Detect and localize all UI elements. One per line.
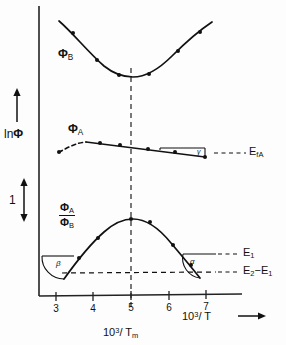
angle-label-gamma: γ bbox=[197, 148, 201, 155]
x-axis-title-tail: / T bbox=[198, 310, 211, 322]
series-phi-b bbox=[59, 21, 212, 77]
y-scale-bar-label: 1 bbox=[9, 194, 16, 206]
phi-ratio-num-subscript: A bbox=[69, 206, 74, 215]
x-axis-title: 103/ T bbox=[182, 311, 211, 322]
phi-b-curve bbox=[59, 21, 212, 77]
y-axis-title-ln: ln bbox=[4, 127, 13, 141]
data-point bbox=[95, 58, 99, 62]
data-point bbox=[171, 243, 175, 247]
y-axis-title: lnΦ bbox=[4, 128, 23, 140]
e2-e1-baseline-dashed bbox=[62, 272, 216, 273]
phi-ratio-den-subscript: B bbox=[69, 221, 74, 230]
angle-label-alpha: α bbox=[190, 258, 195, 266]
data-point bbox=[176, 49, 180, 53]
e2-minus-e1-subscript: 1 bbox=[268, 269, 272, 278]
data-point bbox=[118, 143, 122, 147]
data-point bbox=[71, 31, 75, 35]
data-point bbox=[147, 72, 151, 76]
e2-subscript: 2 bbox=[250, 269, 254, 278]
x-axis-title-exponent: 3 bbox=[194, 310, 198, 319]
data-point bbox=[77, 256, 81, 260]
curve-label-phi-ratio: ΦA ΦB bbox=[59, 202, 75, 229]
x-tick-label-4: 4 bbox=[86, 304, 100, 314]
series-phi-a bbox=[57, 141, 246, 159]
phi-ratio-curve bbox=[64, 219, 200, 279]
phi-ratio-num-symbol: Φ bbox=[60, 201, 69, 213]
phi-a-subscript: A bbox=[78, 128, 83, 137]
x-tick-label-5: 5 bbox=[124, 303, 138, 313]
data-point bbox=[198, 30, 202, 34]
phi-a-solid-segment bbox=[86, 142, 205, 157]
energy-label-e-fa: EfA bbox=[249, 146, 263, 157]
energy-label-e1: E1 bbox=[243, 247, 255, 258]
phi-ratio-denominator: ΦB bbox=[59, 216, 75, 229]
x-tick-label-3: 3 bbox=[49, 304, 63, 314]
curve-label-phi-b: ΦB bbox=[58, 48, 73, 60]
tm-label-exponent: 3 bbox=[115, 326, 119, 335]
data-point bbox=[96, 236, 100, 240]
data-point bbox=[173, 150, 177, 154]
tm-label-subscript: m bbox=[132, 331, 138, 340]
data-point bbox=[203, 155, 207, 159]
x-tick-label-6: 6 bbox=[162, 303, 176, 313]
tm-marker-label: 103/ Tm bbox=[103, 327, 138, 338]
angle-label-beta: β bbox=[56, 260, 61, 268]
chart-canvas bbox=[0, 0, 286, 345]
phi-b-symbol: Φ bbox=[58, 47, 68, 61]
x-axis-direction-arrow bbox=[238, 313, 266, 320]
e-fa-subscript: fA bbox=[256, 150, 263, 159]
data-point bbox=[57, 150, 61, 154]
energy-label-e2-minus-e1: E2−E1 bbox=[243, 265, 272, 276]
phi-ratio-fraction: ΦA ΦB bbox=[59, 202, 75, 228]
x-axis-line bbox=[39, 294, 242, 296]
phi-a-dashed-segment bbox=[59, 142, 86, 152]
phi-b-subscript: B bbox=[68, 53, 73, 62]
y-axis-title-phi: Φ bbox=[13, 127, 23, 141]
phi-ratio-den-symbol: Φ bbox=[60, 216, 69, 228]
data-point bbox=[129, 217, 133, 221]
tm-label-tail: / T bbox=[119, 326, 132, 338]
y-axis-direction-arrow bbox=[13, 88, 20, 122]
figure-root: lnΦ 1 3 4 5 6 7 103/ T 103/ Tm ΦB ΦA ΦA … bbox=[0, 0, 286, 345]
tm-label-base: 10 bbox=[103, 326, 115, 338]
x-axis-title-base: 10 bbox=[182, 310, 194, 322]
y-scale-bar-arrow bbox=[20, 178, 27, 222]
e1-subscript: 1 bbox=[250, 251, 254, 260]
data-point bbox=[98, 141, 102, 145]
data-point bbox=[148, 220, 152, 224]
phi-a-symbol: Φ bbox=[68, 122, 78, 136]
data-point bbox=[146, 147, 150, 151]
data-point bbox=[117, 73, 121, 77]
curve-label-phi-a: ΦA bbox=[68, 123, 83, 135]
phi-ratio-numerator: ΦA bbox=[59, 202, 75, 216]
e2-minus-e1-symbol: −E bbox=[255, 264, 269, 276]
